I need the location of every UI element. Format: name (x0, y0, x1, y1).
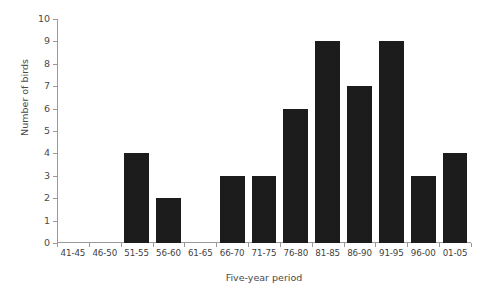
x-tick-label: 81-85 (312, 248, 344, 258)
bar-slot (153, 19, 185, 243)
x-tick-mark (216, 243, 217, 247)
bar-slot (407, 19, 439, 243)
y-axis-title: Number of birds (19, 33, 30, 163)
y-tick-label: 7 (44, 80, 50, 91)
x-tick-mark (184, 243, 185, 247)
bar-slot (344, 19, 376, 243)
bar-slot (280, 19, 312, 243)
bar (252, 176, 277, 243)
x-tick-label: 71-75 (248, 248, 280, 258)
x-tick-mark (153, 243, 154, 247)
plot-area: 012345678910 (57, 19, 471, 243)
x-tick-mark (375, 243, 376, 247)
bar-chart: Number of birds 012345678910 41-4546-505… (0, 0, 493, 300)
bar-slot (375, 19, 407, 243)
x-tick-mark (407, 243, 408, 247)
bar-slot (184, 19, 216, 243)
x-tick-mark (121, 243, 122, 247)
bar-slot (312, 19, 344, 243)
y-tick-label: 5 (44, 125, 50, 136)
y-tick-label: 4 (44, 147, 50, 158)
x-tick-mark (89, 243, 90, 247)
x-tick-label: 56-60 (153, 248, 185, 258)
bar (443, 153, 468, 243)
bar (283, 109, 308, 243)
y-tick-label: 1 (44, 215, 50, 226)
bar-series (57, 19, 471, 243)
x-tick-label: 46-50 (89, 248, 121, 258)
y-tick-label: 10 (38, 13, 50, 24)
bar (124, 153, 149, 243)
x-tick-mark (312, 243, 313, 247)
bar-slot (121, 19, 153, 243)
bar (347, 86, 372, 243)
x-tick-label: 01-05 (439, 248, 471, 258)
y-tick-label: 8 (44, 58, 50, 69)
y-tick-label: 3 (44, 170, 50, 181)
bar-slot (216, 19, 248, 243)
bar-slot (89, 19, 121, 243)
x-tick-mark (280, 243, 281, 247)
x-tick-label: 91-95 (375, 248, 407, 258)
bar (156, 198, 181, 243)
y-tick-label: 9 (44, 35, 50, 46)
x-tick-mark (57, 243, 58, 247)
x-tick-mark (248, 243, 249, 247)
x-tick-label: 96-00 (407, 248, 439, 258)
x-tick-mark (471, 243, 472, 247)
x-tick-mark (344, 243, 345, 247)
bar (220, 176, 245, 243)
x-tick-label: 61-65 (184, 248, 216, 258)
bar-slot (248, 19, 280, 243)
x-tick-mark (439, 243, 440, 247)
bar-slot (439, 19, 471, 243)
x-tick-label: 86-90 (344, 248, 376, 258)
bar (379, 41, 404, 243)
y-tick-label: 0 (44, 237, 50, 248)
bar (315, 41, 340, 243)
x-tick-label: 76-80 (280, 248, 312, 258)
y-tick-label: 6 (44, 103, 50, 114)
x-axis-tick-labels: 41-4546-5051-5556-6061-6566-7071-7576-80… (57, 248, 471, 258)
x-tick-label: 66-70 (216, 248, 248, 258)
x-tick-label: 51-55 (121, 248, 153, 258)
bar-slot (57, 19, 89, 243)
x-axis-title: Five-year period (57, 272, 471, 283)
y-tick-label: 2 (44, 192, 50, 203)
bar (411, 176, 436, 243)
x-tick-label: 41-45 (57, 248, 89, 258)
